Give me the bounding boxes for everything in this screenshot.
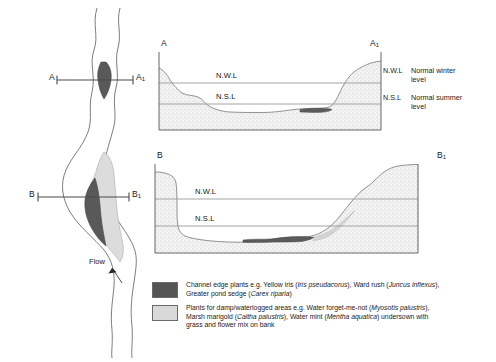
legend-l1-c: ), [435,281,439,288]
key-abbr-nwl: N.W.L [383,66,411,84]
legend-l1-a: Channel edge plants e.g. Yellow iris ( [186,281,297,288]
legend-l1-species-1: Iris pseudacorus [297,281,347,288]
planting-legend: Channel edge plants e.g. Yellow iris (Ir… [152,281,496,336]
section-b-left-label: B [157,150,163,160]
plan-label-a1-subscript: 1 [142,76,145,82]
legend-l1-b: ), Ward rush ( [347,281,388,288]
legend-l4-a: Marsh marigold ( [186,313,237,320]
section-a-dark-vegetation [300,108,332,112]
plan-label-b: B [29,189,35,199]
key-row-nsl: N.S.L Normal summer level [383,93,495,111]
water-level-key: N.W.L Normal winter level N.S.L Normal s… [383,66,495,120]
key-desc-nwl-line2: level [411,75,455,84]
section-b-nsl-label: N.S.L [195,214,215,223]
legend-line-3: Plants for damp/waterlogged areas e.g. W… [186,304,429,313]
plan-label-a1: A1 [136,72,145,82]
legend-swatch-dark [152,282,178,298]
legend-l2-b: ) [290,290,292,297]
plan-label-b1-subscript: 1 [138,193,141,199]
legend-text-channel-edge: Channel edge plants e.g. Yellow iris (Ir… [186,281,439,298]
plan-label-a: A [49,72,55,82]
key-desc-nsl: Normal summer level [411,93,462,111]
legend-l5-a: grass and flower mix on bank [186,321,274,328]
legend-l1-species-2: Juncus inflexus [389,281,435,288]
legend-line-2: Greater pond sedge (Carex riparia) [186,290,439,299]
legend-text-damp-areas: Plants for damp/waterlogged areas e.g. W… [186,304,429,330]
section-a-nwl-label: N.W.L [216,71,237,80]
legend-row-channel-edge: Channel edge plants e.g. Yellow iris (Ir… [152,281,496,298]
cross-section-a [159,52,381,130]
section-a-right-label-subscript: 1 [376,42,379,48]
legend-l3-b: ), [425,304,429,311]
section-b-right-label-subscript: 1 [443,154,446,160]
section-b-nwl-label: N.W.L [195,187,216,196]
legend-l3-a: Plants for damp/waterlogged areas e.g. W… [186,304,371,311]
legend-swatch-light [152,305,178,321]
legend-l4-c: ) undersown with [377,313,428,320]
legend-l2-a: Greater pond sedge ( [186,290,251,297]
section-b-right-label: B1 [437,150,446,160]
key-row-nwl: N.W.L Normal winter level [383,66,495,84]
river-channel-diagram: A A1 B B1 Flow A A1 N.W.L N.S.L B B1 N.W… [0,0,496,362]
key-desc-nsl-line2: level [411,102,462,111]
legend-l4-species-2: Mentha aquatica [327,313,377,320]
legend-line-1: Channel edge plants e.g. Yellow iris (Ir… [186,281,439,290]
key-abbr-nsl: N.S.L [383,93,411,111]
legend-l4-b: ), Water mint ( [284,313,327,320]
section-a-left-label: A [161,38,167,48]
legend-l2-species-1: Carex riparia [251,290,290,297]
legend-l4-species-1: Caltha palustris [237,313,284,320]
legend-line-4: Marsh marigold (Caltha palustris), Water… [186,313,429,322]
key-desc-nsl-line1: Normal summer [411,93,462,102]
cross-section-b [155,164,418,253]
legend-line-5: grass and flower mix on bank [186,321,429,330]
plan-label-b1: B1 [132,189,141,199]
section-a-nsl-label: N.S.L [216,92,236,101]
legend-row-damp-areas: Plants for damp/waterlogged areas e.g. W… [152,304,496,330]
legend-l3-species-1: Myosotis palustris [371,304,425,311]
flow-arrow-icon [108,268,122,283]
key-desc-nwl: Normal winter level [411,66,455,84]
plan-view [38,8,136,358]
key-desc-nwl-line1: Normal winter [411,66,455,75]
flow-label: Flow [89,257,105,266]
plan-section-line-a [57,76,133,85]
section-a-right-label: A1 [370,38,379,48]
